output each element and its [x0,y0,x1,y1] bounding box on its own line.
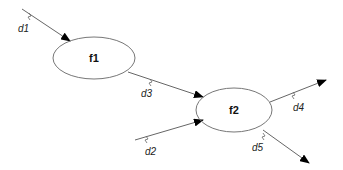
edge-d2[interactable]: d2 [135,120,203,157]
edge-d5[interactable]: d5 [252,130,309,163]
edge-d4[interactable]: d4 [270,80,326,113]
edge-label-d2: d2 [145,146,157,157]
zigzag-icon [28,13,31,20]
edge-d1[interactable]: d1 [18,9,70,41]
edge-d3[interactable]: d3 [128,72,203,99]
node-label-f2: f2 [229,104,239,116]
edge-label-d3: d3 [141,88,153,99]
edge-label-d5: d5 [252,142,264,153]
node-f2[interactable]: f2 [196,88,272,132]
zigzag-icon [262,133,265,140]
node-f1[interactable]: f1 [53,37,135,79]
node-label-f1: f1 [89,52,99,64]
edge-label-d1: d1 [18,23,29,34]
diagram-canvas: d1 f1 d3 d2 f2 d4 d5 [0,0,343,170]
edge-label-d4: d4 [293,102,305,113]
